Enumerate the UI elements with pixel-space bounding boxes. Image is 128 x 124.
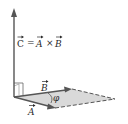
vector-b-label: B <box>40 80 49 93</box>
cross-product-diagram: C = A × B B A φ <box>0 0 128 124</box>
svg-text:B: B <box>40 83 48 93</box>
right-angle-marker <box>14 83 23 95</box>
angle-phi-label: φ <box>53 93 60 103</box>
equation-equals: = <box>27 38 35 48</box>
equation-times: × <box>46 38 54 48</box>
equation-lhs: C <box>17 39 24 49</box>
equation-b: B <box>54 39 62 49</box>
equation-label: C = A × B <box>17 36 63 50</box>
right-angle-marker-2 <box>14 84 19 95</box>
vector-a-label: A <box>27 104 36 117</box>
vector-c-arrowhead-icon <box>11 8 17 17</box>
equation-a: A <box>35 39 43 49</box>
svg-text:A: A <box>27 107 35 117</box>
